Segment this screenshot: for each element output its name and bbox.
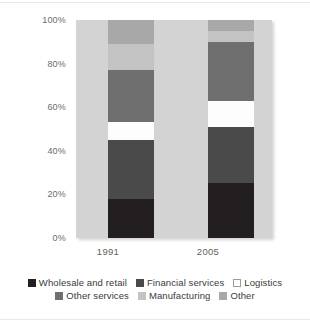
legend-swatch-icon-other-services: [55, 292, 63, 300]
bar-segment-1991-other-services[interactable]: [108, 70, 154, 122]
x-axis-label-1991: 1991: [63, 246, 153, 257]
bar-segment-1991-logistics[interactable]: [108, 122, 154, 139]
y-axis-tick-60: 60%: [47, 102, 66, 112]
y-axis-tick-20: 20%: [47, 189, 66, 199]
legend-row-2: Other servicesManufacturingOther: [0, 289, 310, 302]
legend-item-financial-services[interactable]: Financial services: [136, 276, 224, 289]
bar-segment-2005-other-services[interactable]: [208, 42, 254, 101]
legend-item-manufacturing[interactable]: Manufacturing: [138, 289, 211, 302]
legend-row-1: Wholesale and retailFinancial servicesLo…: [0, 276, 310, 289]
legend-label: Other services: [66, 289, 129, 302]
legend-item-other-services[interactable]: Other services: [55, 289, 129, 302]
stacked-bar-1991[interactable]: [108, 20, 154, 238]
bar-segment-1991-manufacturing[interactable]: [108, 44, 154, 70]
legend-swatch-icon-manufacturing: [138, 292, 146, 300]
legend-swatch-icon-financial-services: [136, 279, 144, 287]
bar-segment-1991-financial-services[interactable]: [108, 140, 154, 199]
x-axis-label-2005: 2005: [163, 246, 253, 257]
y-axis-tick-0: 0%: [53, 233, 66, 243]
bottom-divider-rule: [0, 319, 310, 320]
y-axis-tick-80: 80%: [47, 59, 66, 69]
bar-segment-1991-wholesale-and-retail[interactable]: [108, 199, 154, 238]
bar-segment-1991-other[interactable]: [108, 20, 154, 44]
y-axis-tick-100: 100%: [42, 15, 66, 25]
chart-figure: 100%80%60%40%20%0% 1991 2005 Wholesale a…: [0, 0, 310, 322]
y-axis: 100%80%60%40%20%0%: [0, 0, 72, 260]
legend-label: Financial services: [147, 276, 224, 289]
legend-item-logistics[interactable]: Logistics: [233, 276, 282, 289]
legend-swatch-icon-other: [219, 292, 227, 300]
y-axis-tick-40: 40%: [47, 146, 66, 156]
legend-label: Wholesale and retail: [39, 276, 127, 289]
legend-item-other[interactable]: Other: [219, 289, 254, 302]
bar-segment-2005-financial-services[interactable]: [208, 127, 254, 184]
stacked-bar-2005[interactable]: [208, 20, 254, 238]
legend-label: Other: [230, 289, 254, 302]
legend-swatch-icon-logistics: [233, 279, 241, 287]
bar-segment-2005-manufacturing[interactable]: [208, 31, 254, 42]
legend-swatch-icon-wholesale-and-retail: [28, 279, 36, 287]
plot-area: [76, 20, 272, 238]
legend-item-wholesale-and-retail[interactable]: Wholesale and retail: [28, 276, 127, 289]
bar-segment-2005-other[interactable]: [208, 20, 254, 31]
bar-segment-2005-wholesale-and-retail[interactable]: [208, 183, 254, 238]
legend-label: Manufacturing: [149, 289, 211, 302]
bar-segment-2005-logistics[interactable]: [208, 101, 254, 127]
chart-legend: Wholesale and retailFinancial servicesLo…: [0, 276, 310, 302]
legend-label: Logistics: [244, 276, 282, 289]
